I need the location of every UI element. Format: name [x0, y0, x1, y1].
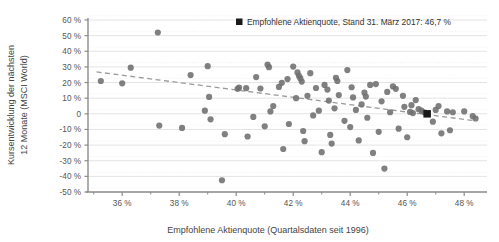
data-point	[327, 132, 333, 138]
chart-canvas: 60 %50 %40 %30 %20 %10 %0-10 %-20 %-30 %…	[0, 0, 499, 242]
data-point	[257, 85, 263, 91]
data-point	[205, 63, 211, 69]
data-point	[331, 105, 337, 111]
data-point	[270, 103, 276, 109]
legend: Empfohlene Aktienquote, Stand 31. März 2…	[236, 17, 451, 27]
x-tick-label: 38 %	[170, 199, 189, 208]
data-point	[376, 129, 382, 135]
data-point	[408, 102, 414, 108]
axes	[86, 18, 487, 192]
y-tick-label: -40 %	[60, 172, 81, 181]
data-point	[98, 78, 104, 84]
data-point	[310, 112, 316, 118]
data-point	[128, 65, 134, 71]
scatter-chart: 60 %50 %40 %30 %20 %10 %0-10 %-20 %-30 %…	[0, 0, 499, 242]
data-point	[222, 131, 228, 137]
y-tick-label: 50 %	[62, 32, 81, 41]
data-point	[179, 125, 185, 131]
data-point	[202, 108, 208, 114]
y-tick-label: 30 %	[62, 63, 81, 72]
y-tick-label: -10 %	[60, 125, 81, 134]
data-point	[304, 93, 310, 99]
data-point	[336, 92, 342, 98]
data-point	[316, 108, 322, 114]
data-point	[219, 177, 225, 183]
data-point	[413, 97, 419, 103]
x-tick-label: 48 %	[455, 199, 474, 208]
data-point	[245, 133, 251, 139]
data-point	[280, 146, 286, 152]
data-point	[313, 85, 319, 91]
y-axis-title-line2: 12 Monate (MSCI World)	[19, 55, 29, 154]
data-point	[319, 149, 325, 155]
data-point	[384, 89, 390, 95]
data-point	[250, 114, 256, 120]
data-point	[119, 80, 125, 86]
data-point	[302, 138, 308, 144]
x-tick-label: 40 %	[227, 199, 246, 208]
data-point	[435, 103, 441, 109]
data-point	[378, 98, 384, 104]
data-point	[266, 64, 272, 70]
data-point	[279, 80, 285, 86]
data-point	[359, 101, 365, 107]
data-point	[356, 137, 362, 143]
data-point	[293, 95, 299, 101]
data-point	[286, 121, 292, 127]
data-point	[284, 76, 290, 82]
data-point	[363, 94, 369, 100]
data-point	[267, 108, 273, 114]
x-tick-label: 44 %	[341, 199, 360, 208]
data-point	[430, 119, 436, 125]
x-axis-tick-labels: 36 %38 %40 %42 %44 %46 %48 %	[113, 199, 474, 208]
x-tick-label: 42 %	[284, 199, 303, 208]
data-point	[334, 78, 340, 84]
data-point	[444, 108, 450, 114]
x-tick-label: 46 %	[398, 199, 417, 208]
y-tick-label: 20 %	[62, 79, 81, 88]
y-tick-label: 40 %	[62, 47, 81, 56]
data-point	[367, 82, 373, 88]
data-point	[324, 86, 330, 92]
x-axis-title: Empfohlene Aktienquote (Quartalsdaten se…	[167, 225, 369, 235]
data-point	[207, 116, 213, 122]
data-point	[253, 74, 259, 80]
data-point	[396, 126, 402, 132]
y-axis-title-line1: Kursentwicklung der nächsten	[6, 45, 16, 165]
y-tick-label: -50 %	[60, 188, 81, 197]
data-point	[262, 123, 268, 129]
data-point	[370, 150, 376, 156]
data-point	[347, 124, 353, 130]
data-point	[188, 72, 194, 78]
data-point	[344, 67, 350, 73]
data-point	[410, 110, 416, 116]
data-point	[236, 84, 242, 90]
y-tick-label: 60 %	[62, 16, 81, 25]
y-axis-tick-labels: 60 %50 %40 %30 %20 %10 %0-10 %-20 %-30 %…	[60, 16, 82, 197]
data-point	[350, 94, 356, 100]
data-point	[393, 86, 399, 92]
data-point	[447, 127, 453, 133]
data-point	[353, 107, 359, 113]
data-point	[450, 109, 456, 115]
legend-square-icon	[236, 19, 243, 26]
data-point	[349, 84, 355, 90]
y-tick-label: 10 %	[62, 94, 81, 103]
data-point	[299, 79, 305, 85]
data-point	[155, 29, 161, 35]
data-point	[387, 109, 393, 115]
data-point	[400, 93, 406, 99]
data-point	[243, 85, 249, 91]
data-point	[329, 140, 335, 146]
legend-label: Empfohlene Aktienquote, Stand 31. März 2…	[247, 17, 451, 27]
x-tick-label: 36 %	[113, 199, 132, 208]
highlight-point-marker	[423, 110, 431, 118]
data-point	[473, 115, 479, 121]
data-point	[404, 134, 410, 140]
data-point	[300, 128, 306, 134]
data-point	[326, 97, 332, 103]
y-tick-label: -30 %	[60, 157, 81, 166]
grid-lines	[88, 16, 487, 192]
data-point	[307, 70, 313, 76]
data-point	[290, 63, 296, 69]
